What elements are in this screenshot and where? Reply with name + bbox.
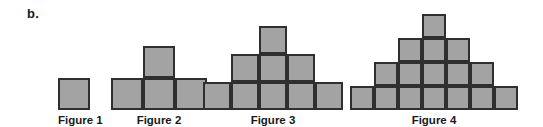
- part-label-b: b.: [27, 7, 39, 20]
- figure-group: Figure 4: [350, 0, 518, 127]
- pattern-square: [231, 54, 259, 82]
- square-stack: [203, 26, 343, 110]
- pattern-square: [446, 38, 470, 62]
- pattern-square: [315, 82, 343, 110]
- figure-caption: Figure 4: [350, 115, 518, 127]
- pattern-square: [259, 26, 287, 54]
- pattern-square: [470, 62, 494, 86]
- figure-group: Figure 2: [111, 0, 207, 127]
- pattern-square: [287, 54, 315, 82]
- pattern-square: [494, 86, 518, 110]
- pattern-square: [259, 82, 287, 110]
- pattern-square: [422, 62, 446, 86]
- square-stack: [111, 46, 207, 110]
- pattern-square: [398, 38, 422, 62]
- pattern-square: [350, 86, 374, 110]
- pattern-square: [470, 86, 494, 110]
- square-stack: [350, 14, 518, 110]
- pattern-square: [398, 62, 422, 86]
- pattern-square: [203, 82, 231, 110]
- pattern-square: [422, 14, 446, 38]
- pattern-square: [374, 62, 398, 86]
- pattern-square: [398, 86, 422, 110]
- pattern-square: [446, 62, 470, 86]
- figure-pattern-panel: b. Figure 1Figure 2Figure 3Figure 4: [0, 0, 543, 127]
- pattern-square: [422, 86, 446, 110]
- square-stack: [58, 78, 90, 110]
- figure-caption: Figure 2: [111, 115, 207, 127]
- figure-caption: Figure 1: [58, 115, 90, 127]
- pattern-square: [143, 46, 175, 78]
- pattern-square: [422, 38, 446, 62]
- pattern-square: [374, 86, 398, 110]
- pattern-square: [231, 82, 259, 110]
- figure-caption: Figure 3: [203, 115, 343, 127]
- pattern-square: [259, 54, 287, 82]
- pattern-square: [111, 78, 143, 110]
- figure-group: Figure 3: [203, 0, 343, 127]
- pattern-square: [143, 78, 175, 110]
- figure-group: Figure 1: [58, 0, 90, 127]
- pattern-square: [446, 86, 470, 110]
- pattern-square: [58, 78, 90, 110]
- pattern-square: [287, 82, 315, 110]
